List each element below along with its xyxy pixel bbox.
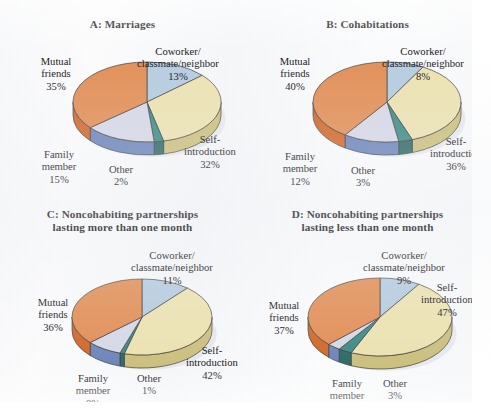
panel-b-title: B: Cohabitations: [245, 18, 490, 31]
label-a-family-member: Family member 15%: [28, 137, 90, 198]
figure-canvas: A: Marriages Mutual friends 35% Coworker…: [0, 0, 491, 418]
label-a-coworker: Coworker/ classmate/neighbor 13%: [119, 34, 237, 95]
panel-d: D: Noncohabiting partnerships lasting le…: [245, 205, 490, 412]
label-a-other: Other 2%: [99, 152, 143, 201]
label-c-coworker: Coworker/ classmate/neighbor 11%: [113, 238, 231, 299]
label-d-self-introduction: Self- introduction 47%: [413, 270, 481, 331]
label-d-mutual-friends: Mutual friends 37%: [253, 288, 315, 349]
label-b-mutual-friends: Mutual friends 40%: [263, 44, 327, 105]
label-b-coworker: Coworker/ classmate/neighbor 8%: [363, 34, 483, 95]
pie-slice-side-other: [399, 140, 413, 155]
panel-a-title: A: Marriages: [0, 18, 245, 31]
page-right-margin: [472, 0, 491, 418]
panel-d-title: D: Noncohabiting partnerships lasting le…: [245, 208, 490, 234]
panel-c: C: Noncohabiting partnerships lasting mo…: [0, 205, 245, 412]
panel-b: B: Cohabitations Mutual friends 40% Cowo…: [245, 0, 490, 207]
label-a-mutual-friends: Mutual friends 35%: [24, 44, 88, 105]
pie-slice-side-other: [154, 141, 163, 155]
page-bottom-margin: [0, 402, 491, 418]
label-c-mutual-friends: Mutual friends 36%: [22, 285, 84, 346]
panel-a: A: Marriages Mutual friends 35% Coworker…: [0, 0, 245, 207]
label-b-family-member: Family member 12%: [269, 139, 331, 200]
label-a-self-introduction: Self- introduction 32%: [178, 122, 242, 183]
label-b-other: Other 3%: [341, 153, 385, 202]
panel-c-title: C: Noncohabiting partnerships lasting mo…: [0, 208, 245, 234]
label-c-self-introduction: Self- introduction 42%: [180, 333, 244, 394]
